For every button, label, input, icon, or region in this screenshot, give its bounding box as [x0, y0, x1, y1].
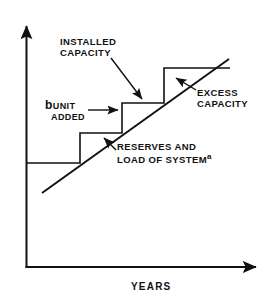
reserves-load-footnote-marker: a	[207, 152, 212, 161]
installed-capacity-label-line2: CAPACITY	[60, 47, 111, 58]
unit-added-word1: UNIT	[53, 101, 76, 111]
installed-capacity-leader-arrow	[111, 58, 142, 99]
excess-capacity-label: EXCESS CAPACITY	[197, 87, 248, 109]
excess-capacity-label-line2: CAPACITY	[197, 98, 248, 109]
installed-capacity-label-line1: INSTALLED	[60, 36, 116, 47]
installed-capacity-label: INSTALLED CAPACITY	[60, 36, 116, 58]
reserves-load-label-line1: RESERVES AND	[117, 141, 196, 152]
unit-added-symbol: b	[45, 98, 53, 112]
capacity-expansion-diagram: INSTALLED CAPACITY EXCESS CAPACITY RESER…	[0, 0, 276, 302]
reserves-load-trend-line	[42, 59, 229, 193]
reserves-load-label: RESERVES AND LOAD OF SYSTEMa	[117, 141, 212, 166]
x-axis-label: YEARS	[131, 281, 171, 293]
unit-added-word2: ADDED	[45, 112, 85, 123]
excess-capacity-label-line1: EXCESS	[197, 87, 238, 98]
unit-added-label: bUNIT ADDED	[45, 98, 85, 123]
reserves-load-label-line2: LOAD OF SYSTEM	[117, 154, 207, 165]
